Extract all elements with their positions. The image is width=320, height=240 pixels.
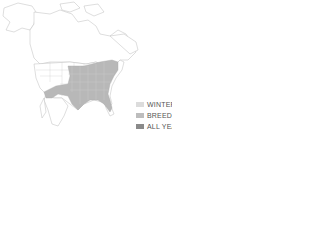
- legend-item-winter: WINTER: [136, 99, 172, 109]
- breeding-swatch: [136, 113, 144, 118]
- legend-label: BREEDIN: [147, 112, 172, 119]
- legend-label: ALL YEA: [147, 123, 172, 130]
- legend-item-breeding: BREEDIN: [136, 110, 172, 120]
- legend-item-all-year: ALL YEA: [136, 121, 172, 131]
- legend-label: WINTER: [147, 101, 172, 108]
- all-year-swatch: [136, 124, 144, 129]
- winter-swatch: [136, 102, 144, 107]
- map-legend: WINTER BREEDIN ALL YEA: [136, 99, 172, 131]
